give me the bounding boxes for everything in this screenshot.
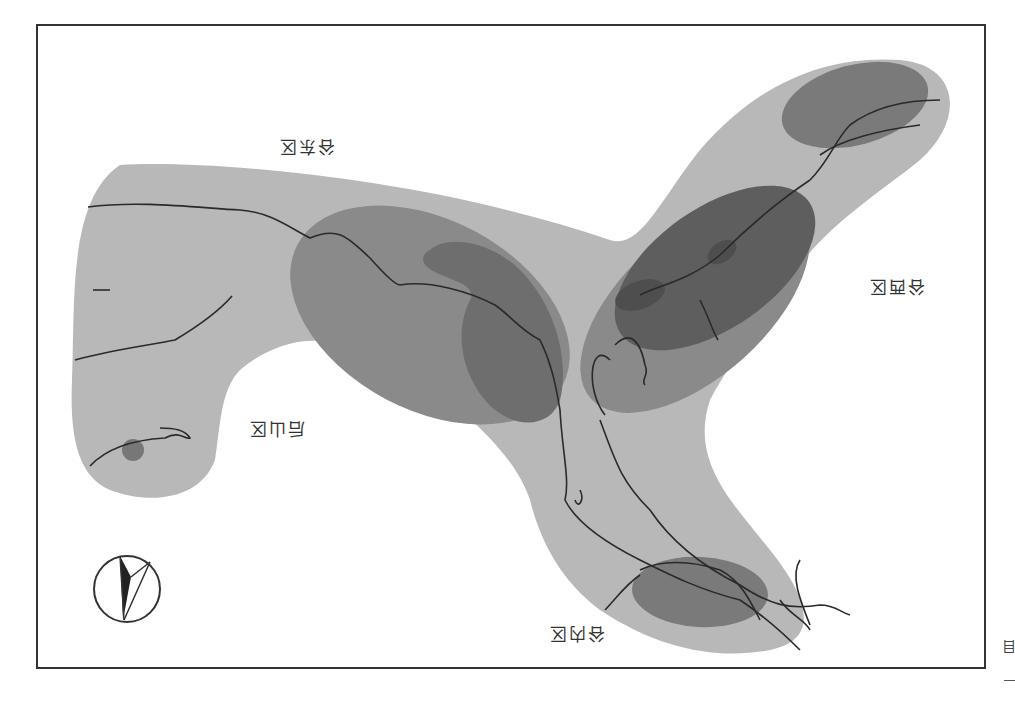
label-east-valley: 谷东区 (278, 136, 335, 161)
label-west-valley: 谷西区 (868, 276, 925, 301)
label-back-mountain: 后山区 (248, 418, 305, 443)
edge-text: 目 (1002, 638, 1015, 658)
north-arrow-icon (94, 556, 160, 622)
zone-map (0, 0, 1015, 707)
edge-dash (1004, 680, 1015, 681)
label-inner-valley: 谷内区 (548, 623, 605, 648)
